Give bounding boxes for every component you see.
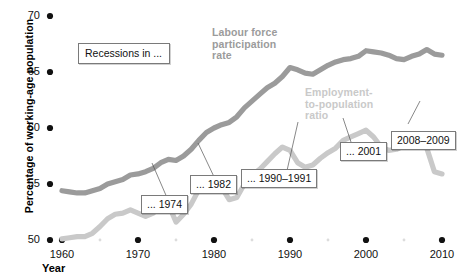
series-label-epr-line3: ratio [305, 110, 373, 122]
y-axis-title: Percentage of working-age population [23, 16, 35, 216]
x-tick-label-2000: 2000 [346, 248, 386, 260]
callout-recession-2008-2009: 2008–2009 [391, 131, 456, 150]
callout-recession-1974: ... 1974 [141, 195, 188, 214]
series-label-employment-to-population-ratio: Employment- to-population ratio [305, 87, 373, 122]
x-axis-minor-ticks [99, 239, 406, 242]
series-label-lfp-line1: Labour force [212, 27, 277, 39]
chart-container: 70 65 60 55 50 1960 1970 1980 1990 2000 … [0, 0, 474, 280]
y-axis-major-ticks [47, 13, 53, 243]
y-tick-label-50: 50 [18, 233, 40, 245]
callout-recession-2001: ... 2001 [340, 142, 387, 161]
x-tick-label-1990: 1990 [270, 248, 310, 260]
callout-recession-1982: ... 1982 [190, 175, 237, 194]
callout-recessions-in: Recessions in ... [78, 43, 170, 64]
x-tick-label-2010: 2010 [422, 248, 462, 260]
x-tick-label-1970: 1970 [118, 248, 158, 260]
x-axis-title: Year [42, 262, 65, 274]
series-label-lfp-line3: rate [212, 50, 277, 62]
callout-recession-1990-1991: ... 1990–1991 [241, 169, 317, 188]
series-label-labour-force-participation-rate: Labour force participation rate [212, 27, 277, 62]
series-label-epr-line1: Employment- [305, 87, 373, 99]
x-tick-label-1960: 1960 [42, 248, 82, 260]
x-tick-label-1980: 1980 [194, 248, 234, 260]
